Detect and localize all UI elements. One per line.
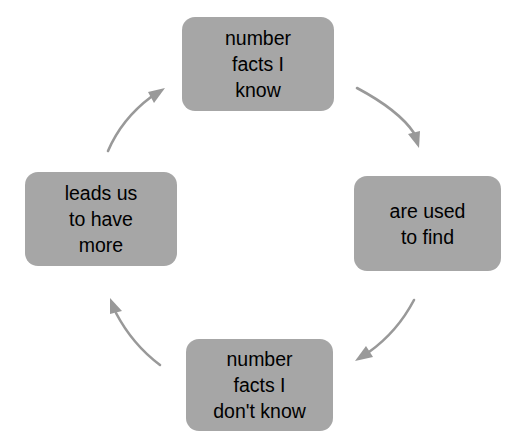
cycle-node-bottom: number facts I don't know xyxy=(186,339,333,431)
cycle-node-left: leads us to have more xyxy=(25,172,177,266)
cycle-node-right: are used to find xyxy=(354,176,501,271)
curved-arrow-icon xyxy=(357,88,414,133)
arrowhead-icon xyxy=(355,346,373,361)
arrow-right-to-bottom xyxy=(355,300,414,361)
arrow-left-to-top xyxy=(108,88,165,151)
curved-arrow-icon xyxy=(108,97,151,151)
arrow-bottom-to-left xyxy=(110,298,160,365)
cycle-diagram: number facts I know are used to find num… xyxy=(0,0,523,447)
cycle-node-top: number facts I know xyxy=(182,17,334,111)
arrowhead-icon xyxy=(110,298,122,314)
arrow-top-to-right xyxy=(357,88,420,148)
arrowhead-icon xyxy=(148,88,165,103)
arrowhead-icon xyxy=(408,131,420,148)
curved-arrow-icon xyxy=(369,300,414,352)
curved-arrow-icon xyxy=(116,313,160,365)
